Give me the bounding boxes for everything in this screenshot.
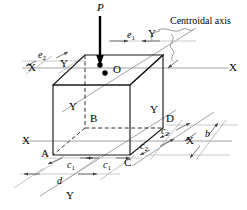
axis-label-y-right-inside: Y [150,104,158,115]
dim-label-d: d [57,176,62,186]
x-axis-end-arrows [168,60,196,141]
dim-c1-left-sub: 1 [71,164,75,172]
witness-b-b [196,120,226,160]
corner-label-C: C [124,157,131,168]
dim-b-arrows [190,123,218,158]
dim-e2-sub: 2 [42,54,46,62]
x-top-arrow [168,60,178,68]
axis-label-x-bottom-right: X [186,135,194,146]
corner-label-B: B [90,113,97,124]
diagram-svg [0,0,247,210]
dim-label-c1-left: c1 [67,160,75,172]
centroid-point-O [102,70,107,75]
figure-canvas: P Centroidal axis O A B C D X X X X Y Y … [0,0,247,210]
centroidal-axis-annotation: Centroidal axis [170,16,231,26]
axis-label-y-upper-inside: Y [60,58,68,69]
axis-label-x-bottom-left: X [22,135,30,146]
cube-right-face [130,55,163,155]
dim-label-e1: e1 [127,30,135,42]
dim-c1-right-sub: 1 [107,164,111,172]
axis-label-x-top-right: X [229,62,237,73]
hidden-edge-B-to-A [53,128,85,155]
dim-label-b: b [205,129,210,139]
corner-label-D: D [166,113,174,124]
dim-c1-arrows [48,158,130,164]
axis-label-y-bottom: Y [66,190,74,201]
dim-label-c2-lower: c2 [140,141,148,153]
dim-c1-left-arrow-out [48,158,62,164]
load-label-P: P [97,2,104,13]
point-markers [97,62,107,75]
axis-label-x-top-left: X [28,62,36,73]
leader-wave-upper [158,29,193,32]
axis-label-y-left-inside: Y [69,101,77,112]
leader-wave-lower [170,34,174,61]
dim-e1-sub: 1 [131,34,135,42]
dim-c2-lower-arrow [160,139,174,146]
dim-label-c2-upper: c2 [161,126,169,138]
corner-label-O: O [113,64,121,75]
dim-c2-upper-sub: 2 [165,130,169,138]
axis-label-y-top-right: Y [148,28,156,39]
corner-label-A: A [41,148,49,159]
load-application-point [97,62,102,67]
dim-label-e2: e2 [38,50,46,62]
dim-c2-lower-sub: 2 [144,145,148,153]
load-arrow-group [96,16,104,66]
witness-d-a [14,168,44,188]
dim-label-c1-right: c1 [103,160,111,172]
